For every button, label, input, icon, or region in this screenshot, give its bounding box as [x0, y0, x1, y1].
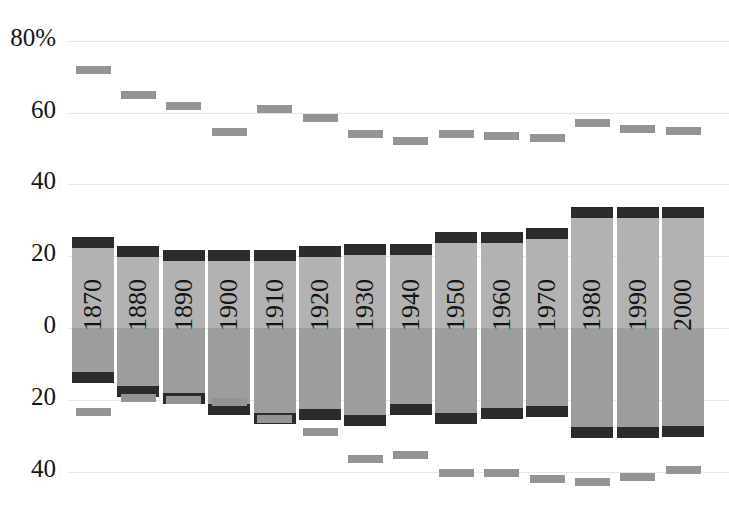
bar-year-label-1900: 1900: [208, 266, 250, 344]
bar-group-1930[interactable]: 1930: [344, 0, 386, 524]
bar-bottom-cap-1980: [571, 427, 613, 438]
lower-marker-2000[interactable]: [666, 466, 701, 474]
bar-year-label-1980: 1980: [571, 266, 613, 344]
upper-marker-1990[interactable]: [620, 125, 655, 133]
y-axis-tick-20: 20: [0, 240, 56, 265]
lower-marker-1990[interactable]: [620, 473, 655, 481]
y-axis-tick-neg-40: 40: [0, 456, 56, 481]
bar-bottom-cap-1960: [481, 408, 523, 419]
upper-marker-1900[interactable]: [212, 128, 247, 136]
upper-marker-1930[interactable]: [348, 130, 383, 138]
bar-group-1950[interactable]: 1950: [435, 0, 477, 524]
bar-bottom-cap-1940: [390, 404, 432, 415]
lower-marker-1880[interactable]: [121, 394, 156, 402]
bar-year-label-1950: 1950: [435, 266, 477, 344]
bar-year-label-1960: 1960: [481, 266, 523, 344]
lower-marker-1920[interactable]: [303, 428, 338, 436]
bar-top-cap-1940: [390, 244, 432, 255]
bar-bottom-cap-1920: [299, 409, 341, 420]
lower-marker-1960[interactable]: [484, 469, 519, 477]
bar-year-label-1940: 1940: [390, 266, 432, 344]
bar-group-1920[interactable]: 1920: [299, 0, 341, 524]
bar-top-cap-1880: [117, 246, 159, 257]
bar-top-cap-1960: [481, 232, 523, 243]
upper-marker-1950[interactable]: [439, 130, 474, 138]
lower-marker-1890[interactable]: [166, 396, 201, 404]
bar-negative-1990[interactable]: [617, 328, 659, 437]
bar-bottom-cap-1870: [72, 372, 114, 383]
bar-bottom-cap-1930: [344, 415, 386, 426]
y-axis-tick-40: 40: [0, 168, 56, 193]
bar-year-label-1930: 1930: [344, 266, 386, 344]
bar-bottom-cap-1990: [617, 427, 659, 438]
bar-year-label-1970: 1970: [526, 266, 568, 344]
bar-top-cap-1900: [208, 250, 250, 261]
bar-group-1980[interactable]: 1980: [571, 0, 613, 524]
bar-group-1870[interactable]: 1870: [72, 0, 114, 524]
bar-year-label-2000: 2000: [662, 266, 704, 344]
upper-marker-1960[interactable]: [484, 132, 519, 140]
lower-marker-1930[interactable]: [348, 455, 383, 463]
bar-top-cap-1870: [72, 237, 114, 248]
chart-canvas: 80%6040200204018701880189019001910192019…: [0, 0, 729, 524]
bar-negative-1980[interactable]: [571, 328, 613, 437]
lower-marker-1910[interactable]: [257, 415, 292, 423]
bar-negative-2000[interactable]: [662, 328, 704, 436]
upper-marker-2000[interactable]: [666, 127, 701, 135]
bar-year-label-1920: 1920: [299, 266, 341, 344]
lower-marker-1900[interactable]: [212, 398, 247, 406]
bar-group-1970[interactable]: 1970: [526, 0, 568, 524]
upper-marker-1940[interactable]: [393, 137, 428, 145]
bar-group-1940[interactable]: 1940: [390, 0, 432, 524]
bar-top-cap-1890: [163, 250, 205, 261]
bar-year-label-1890: 1890: [163, 266, 205, 344]
bar-bottom-cap-1950: [435, 413, 477, 424]
bar-group-2000[interactable]: 2000: [662, 0, 704, 524]
bar-bottom-cap-1900: [208, 404, 250, 415]
bar-group-1990[interactable]: 1990: [617, 0, 659, 524]
bar-year-label-1910: 1910: [254, 266, 296, 344]
bar-top-cap-1950: [435, 232, 477, 243]
y-axis-tick-60: 60: [0, 97, 56, 122]
bar-group-1900[interactable]: 1900: [208, 0, 250, 524]
bar-top-cap-1990: [617, 207, 659, 218]
bar-top-cap-2000: [662, 207, 704, 218]
bar-top-cap-1930: [344, 244, 386, 255]
lower-marker-1940[interactable]: [393, 451, 428, 459]
bar-group-1890[interactable]: 1890: [163, 0, 205, 524]
y-axis-tick-80pct: 80%: [0, 25, 56, 50]
lower-marker-1950[interactable]: [439, 469, 474, 477]
bar-group-1910[interactable]: 1910: [254, 0, 296, 524]
bar-group-1960[interactable]: 1960: [481, 0, 523, 524]
upper-marker-1910[interactable]: [257, 105, 292, 113]
lower-marker-1980[interactable]: [575, 478, 610, 486]
upper-marker-1870[interactable]: [76, 66, 111, 74]
bar-top-cap-1910: [254, 250, 296, 261]
bar-top-cap-1980: [571, 207, 613, 218]
upper-marker-1880[interactable]: [121, 91, 156, 99]
bar-year-label-1880: 1880: [117, 266, 159, 344]
bar-group-1880[interactable]: 1880: [117, 0, 159, 524]
lower-marker-1970[interactable]: [530, 475, 565, 483]
lower-marker-1870[interactable]: [76, 408, 111, 416]
upper-marker-1890[interactable]: [166, 102, 201, 110]
bar-top-cap-1970: [526, 228, 568, 239]
bar-top-cap-1920: [299, 246, 341, 257]
y-axis-tick-0: 0: [0, 312, 56, 337]
bar-bottom-cap-1970: [526, 406, 568, 417]
upper-marker-1970[interactable]: [530, 134, 565, 142]
bar-bottom-cap-2000: [662, 426, 704, 437]
y-axis-tick-neg-20: 20: [0, 384, 56, 409]
bar-year-label-1990: 1990: [617, 266, 659, 344]
upper-marker-1980[interactable]: [575, 119, 610, 127]
upper-marker-1920[interactable]: [303, 114, 338, 122]
bar-year-label-1870: 1870: [72, 266, 114, 344]
